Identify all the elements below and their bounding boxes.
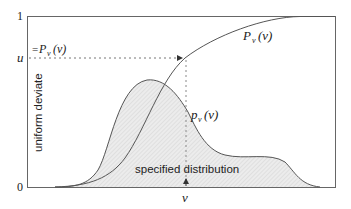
u-equals-cdf-label: = P v (v) [32, 42, 66, 58]
tick-v: v [182, 190, 188, 205]
svg-text:(v): (v) [258, 28, 272, 43]
svg-text:P: P [38, 42, 47, 56]
svg-text:(v): (v) [204, 107, 218, 122]
tick-u: u [17, 50, 24, 65]
distribution-label: specified distribution [135, 163, 239, 175]
svg-text:=: = [32, 43, 38, 55]
tick-one: 1 [17, 9, 23, 23]
transformation-method-diagram: 1 u 0 v = P v (v) P v (v) p v (v) specif… [0, 0, 351, 209]
svg-text:v: v [47, 49, 51, 58]
svg-text:(v): (v) [53, 42, 66, 56]
svg-text:v: v [252, 36, 256, 45]
tick-zero: 0 [17, 180, 23, 194]
svg-text:v: v [198, 115, 202, 124]
svg-text:P: P [242, 28, 251, 43]
svg-text:p: p [190, 107, 198, 122]
y-axis-label: uniform deviate [32, 73, 44, 152]
cdf-label: P v (v) [242, 28, 272, 45]
pdf-label: p v (v) [190, 107, 218, 124]
